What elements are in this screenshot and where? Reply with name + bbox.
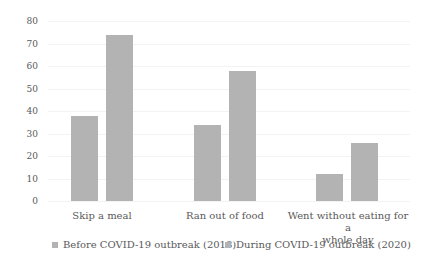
y-tick-label: 80 [14, 16, 38, 26]
y-tick-label: 50 [14, 84, 38, 94]
y-tick-label: 20 [14, 151, 38, 161]
bar-chart: Skip a meal Ran out of food Went without… [0, 0, 428, 259]
legend-swatch-icon [225, 242, 231, 248]
category-label-line-1: Went without eating for a [287, 210, 409, 234]
y-tick-label: 0 [14, 196, 38, 206]
legend-item-2020: During COVID-19 outbreak (2020) [225, 239, 411, 250]
category-label-ran-out-food: Ran out of food [175, 210, 275, 222]
gridline [48, 21, 410, 22]
bar-2020 [229, 71, 256, 202]
y-tick-label: 10 [14, 174, 38, 184]
bar-2018 [71, 116, 98, 202]
gridline [48, 44, 410, 45]
bar-2020 [106, 35, 133, 202]
legend-label: During COVID-19 outbreak (2020) [236, 239, 411, 250]
bar-2018 [194, 125, 221, 202]
legend-label: Before COVID-19 outbreak (2018) [63, 239, 236, 250]
gridline [48, 201, 410, 202]
bar-2018 [316, 174, 343, 201]
category-label-skip-meal: Skip a meal [52, 210, 152, 222]
y-tick-label: 70 [14, 39, 38, 49]
legend-swatch-icon [52, 242, 58, 248]
y-tick-label: 30 [14, 129, 38, 139]
legend: Before COVID-19 outbreak (2018) During C… [0, 239, 428, 253]
y-tick-label: 40 [14, 106, 38, 116]
y-tick-label: 60 [14, 61, 38, 71]
bar-2020 [351, 143, 378, 202]
gridline [48, 66, 410, 67]
legend-item-2018: Before COVID-19 outbreak (2018) [52, 239, 236, 250]
